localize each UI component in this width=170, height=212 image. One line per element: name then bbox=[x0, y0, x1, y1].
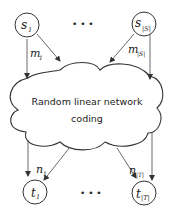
ellipsis-bottom: • • • bbox=[80, 188, 102, 198]
source-sS-subscript: |S| bbox=[142, 25, 151, 33]
sink-tT-subscript: |T| bbox=[141, 194, 150, 202]
edge-label-mS-subscript: |S| bbox=[137, 50, 145, 58]
sink-node-tT: t |T| bbox=[132, 181, 156, 205]
edge-label-m1-subscript: 1 bbox=[39, 54, 43, 61]
source-s1-subscript: 1 bbox=[28, 26, 32, 34]
edge-label-n1-subscript: 1 bbox=[43, 170, 47, 177]
sink-node-t1: t 1 bbox=[23, 180, 47, 204]
source-node-s1: s 1 bbox=[15, 13, 39, 37]
cloud-text-line1: Random linear network bbox=[32, 96, 143, 107]
source-node-sS: s |S| bbox=[132, 12, 156, 36]
source-sS-label: s bbox=[135, 16, 141, 30]
sink-t1-subscript: 1 bbox=[36, 193, 40, 201]
ellipsis-top: • • • bbox=[72, 19, 94, 29]
edge-label-nT-subscript: |T| bbox=[136, 171, 144, 179]
source-s1-label: s bbox=[21, 18, 27, 32]
network-coding-diagram: s 1 s |S| • • • m 1 m |S| Random linear … bbox=[0, 0, 170, 212]
cloud-text-line2: coding bbox=[71, 113, 103, 124]
edge-t1-diagonal bbox=[44, 147, 70, 180]
